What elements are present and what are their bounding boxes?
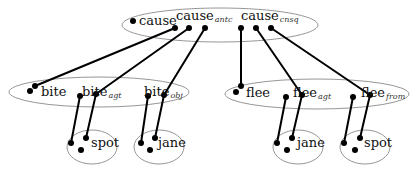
label-cause: cause: [139, 13, 177, 28]
label-bite-obj: biteobj: [144, 84, 183, 100]
label-bite: bite: [41, 84, 67, 99]
label-leaf-spot-right: spot: [364, 135, 393, 150]
label-cause-antc: causeantc: [176, 8, 233, 24]
label-flee: flee: [246, 85, 270, 100]
label-cause-cnsq: causecnsq: [241, 8, 299, 24]
semantic-graph-diagram: cause causeantc causecnsq bite biteagt b…: [0, 0, 414, 169]
label-leaf-spot-left: spot: [91, 135, 120, 150]
label-flee-agt: fleeagt: [293, 85, 332, 101]
label-leaf-jane-right: jane: [295, 135, 325, 150]
label-leaf-jane-left: jane: [156, 135, 186, 150]
label-bite-agt: biteagt: [82, 84, 122, 100]
